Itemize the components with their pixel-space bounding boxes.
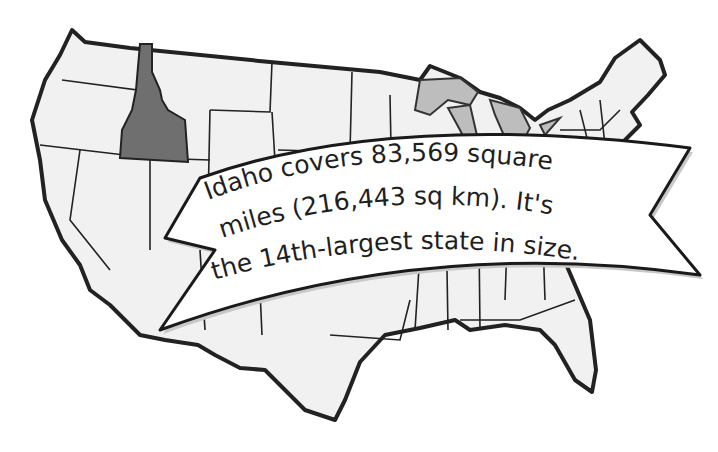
- idaho-map-illustration: Idaho covers 83,569 square miles (216,44…: [0, 0, 718, 452]
- us-map: Idaho covers 83,569 square miles (216,44…: [0, 0, 718, 452]
